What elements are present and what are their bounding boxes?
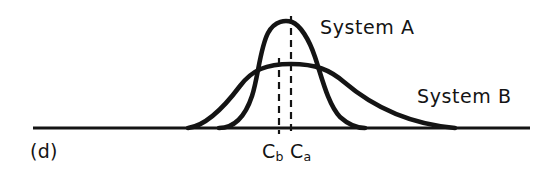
marker-label-ca-letter: C — [290, 140, 304, 162]
marker-label-cb: Cb — [262, 140, 284, 164]
annotation-system-a: System A — [320, 16, 415, 38]
annotation-system-b: System B — [417, 85, 512, 107]
figure-panel-d: System A System B Cb Ca (d) — [0, 0, 559, 194]
marker-label-cb-subscript: b — [276, 149, 284, 164]
marker-label-cb-letter: C — [262, 140, 276, 162]
panel-label: (d) — [30, 140, 58, 162]
marker-label-ca: Ca — [290, 140, 311, 164]
marker-label-ca-subscript: a — [304, 149, 312, 164]
